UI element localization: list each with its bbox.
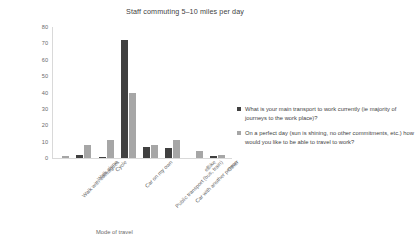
bar: [99, 157, 106, 158]
bar-group: [186, 27, 208, 158]
legend-label: What is your main transport to work curr…: [245, 106, 396, 121]
chart-legend: What is your main transport to work curr…: [237, 105, 417, 153]
bar: [143, 147, 150, 158]
bar: [107, 140, 114, 158]
y-axis-tick: 0: [45, 155, 48, 161]
bar-group: [141, 27, 163, 158]
x-axis-category-label: Car on my own: [143, 159, 173, 189]
y-axis-tick: 60: [42, 57, 48, 63]
legend-item[interactable]: What is your main transport to work curr…: [237, 105, 417, 122]
y-axis-tick: 30: [42, 106, 48, 112]
bar-group: [97, 27, 119, 158]
bar-chart: Staff commuting 5–10 miles per day Numbe…: [0, 0, 419, 250]
y-axis-tick: 10: [42, 139, 48, 145]
bar: [62, 156, 69, 158]
y-axis-tick: 20: [42, 122, 48, 128]
legend-swatch: [237, 131, 241, 135]
bar: [76, 155, 83, 158]
bar: [210, 156, 217, 158]
bar-groups: [52, 27, 230, 158]
bar: [173, 140, 180, 158]
bar: [165, 148, 172, 158]
y-axis-tick: 70: [42, 40, 48, 46]
x-axis-title: Mode of travel: [96, 229, 133, 235]
bar-group: [74, 27, 96, 158]
x-axis-category-label: Other: [225, 159, 239, 173]
chart-title: Staff commuting 5–10 miles per day: [60, 7, 310, 16]
bar-group: [52, 27, 74, 158]
x-axis-category-labels: Walk with colleaguesWalk aloneCycleCar o…: [52, 159, 242, 219]
legend-label: On a perfect day (sun is shining, no oth…: [245, 130, 414, 145]
legend-swatch: [237, 107, 241, 111]
bar: [129, 93, 136, 159]
bar-group: [163, 27, 185, 158]
bar: [84, 145, 91, 158]
bar: [218, 155, 225, 158]
y-axis-tick-labels: 01020304050607080: [26, 27, 48, 158]
bar-group: [119, 27, 141, 158]
bar: [121, 40, 128, 158]
legend-item[interactable]: On a perfect day (sun is shining, no oth…: [237, 129, 417, 146]
bar: [151, 145, 158, 158]
y-axis-tick: 80: [42, 24, 48, 30]
y-axis-tick: 40: [42, 90, 48, 96]
bar-group: [208, 27, 230, 158]
bar: [196, 151, 203, 158]
y-axis-tick: 50: [42, 73, 48, 79]
